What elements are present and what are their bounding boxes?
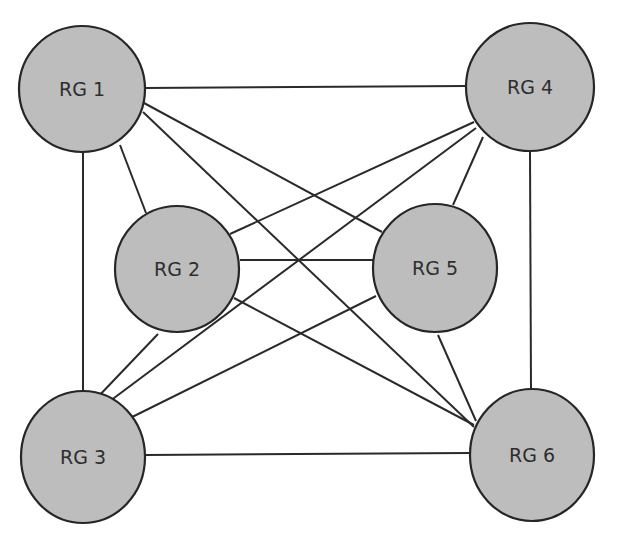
nodes-group: RG 1RG 2RG 3RG 4RG 5RG 6 [19, 23, 594, 523]
node-label: RG 2 [154, 258, 200, 280]
edge-rg2-rg3 [95, 334, 158, 400]
node-rg6: RG 6 [470, 389, 594, 521]
edge-rg4-rg6 [530, 152, 531, 389]
node-label: RG 4 [507, 76, 553, 98]
node-rg4: RG 4 [466, 23, 594, 151]
node-rg3: RG 3 [21, 391, 145, 523]
edge-rg3-rg6 [146, 453, 469, 455]
node-rg1: RG 1 [19, 26, 145, 152]
edge-rg4-rg5 [453, 137, 483, 205]
network-diagram: RG 1RG 2RG 3RG 4RG 5RG 6 [0, 0, 617, 549]
node-label: RG 1 [59, 78, 105, 100]
node-rg5: RG 5 [373, 204, 497, 332]
edge-rg1-rg2 [120, 145, 146, 213]
edge-rg1-rg4 [145, 86, 466, 88]
node-rg2: RG 2 [115, 206, 239, 332]
node-label: RG 5 [412, 257, 458, 279]
node-label: RG 6 [509, 444, 555, 466]
node-label: RG 3 [60, 446, 106, 468]
